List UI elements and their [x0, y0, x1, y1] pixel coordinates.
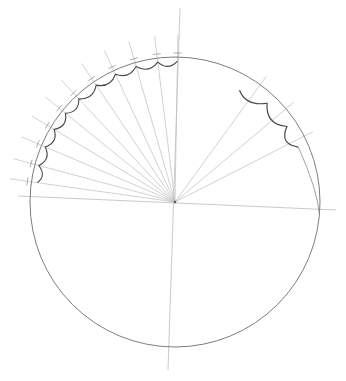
horizontal-axis-line [18, 196, 336, 210]
radial-ray [21, 137, 175, 202]
tick-mark [45, 122, 49, 129]
tick-mark [153, 54, 161, 55]
radial-ray [175, 35, 178, 202]
circle-construction-diagram [0, 0, 346, 381]
center-point [174, 201, 176, 203]
radial-ray [61, 80, 175, 202]
right-inner-curve [298, 147, 319, 215]
radial-ray [104, 51, 175, 202]
radial-ray [14, 159, 175, 202]
left-scalloped-arc [37, 61, 177, 183]
radial-ray [175, 77, 266, 202]
sketch-canvas [0, 0, 346, 381]
axis-lines [18, 8, 336, 370]
radial-ray [175, 102, 294, 202]
rim-tick-marks [27, 53, 182, 185]
tick-mark [88, 76, 95, 80]
radial-ray [175, 132, 313, 202]
tick-mark [108, 65, 115, 68]
right-scalloped-arc [240, 90, 299, 147]
vertical-axis-line [168, 8, 180, 370]
radial-guide-lines [10, 35, 313, 202]
radial-ray [155, 36, 175, 202]
tick-mark [36, 140, 39, 147]
radial-ray [32, 116, 175, 202]
radial-ray [82, 64, 175, 202]
tick-mark [57, 105, 62, 111]
radial-ray [129, 41, 175, 202]
